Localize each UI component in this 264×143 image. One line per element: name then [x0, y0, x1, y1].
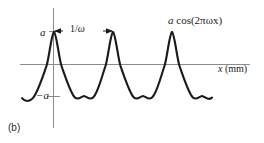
cosine-curve [22, 32, 212, 101]
amplitude-positive-label: a [40, 27, 46, 38]
period-label: 1/ω [70, 24, 85, 34]
panel-label: (b) [8, 123, 20, 133]
function-expression-label: a cos(2πωx) [168, 15, 222, 26]
period-numerator: 1/ [70, 23, 78, 34]
amplitude-negative-label: −a [36, 90, 49, 101]
x-axis-label: x (mm) [218, 64, 247, 74]
function-operator: cos [176, 14, 191, 26]
x-axis-units: (mm) [225, 63, 247, 74]
period-omega-symbol: ω [78, 23, 85, 34]
figure-panel-b: a −a 1/ω a cos(2πωx) x (mm) (b) [0, 0, 264, 143]
function-argument: (2πωx) [191, 14, 222, 26]
